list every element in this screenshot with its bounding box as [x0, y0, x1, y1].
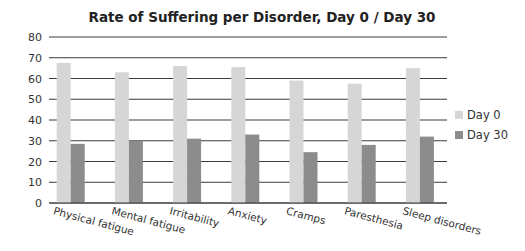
y-tick-label: 20: [28, 156, 42, 169]
bar-day-0: [406, 68, 420, 203]
bar-group: [406, 68, 434, 203]
x-axis-labels: Physical fatigueMental fatigueIrritabili…: [52, 204, 483, 237]
y-tick-label: 80: [28, 31, 42, 44]
legend-swatch: [455, 131, 463, 139]
bar-day-30: [362, 145, 376, 203]
y-tick-label: 0: [35, 197, 42, 210]
bar-day-0: [173, 66, 187, 203]
legend-item: Day 0: [455, 108, 501, 122]
legend-label: Day 30: [467, 128, 508, 142]
x-tick-label: Anxiety: [227, 204, 269, 226]
y-tick-label: 40: [28, 114, 42, 127]
legend-label: Day 0: [467, 108, 501, 122]
bar-day-30: [71, 144, 85, 203]
legend-item: Day 30: [455, 128, 508, 142]
bar-group: [231, 67, 259, 203]
bar-group: [173, 66, 201, 203]
chart-title: Rate of Suffering per Disorder, Day 0 / …: [89, 9, 436, 25]
legend: Day 0Day 30: [455, 108, 508, 142]
x-tick-label: Sleep disorders: [401, 204, 482, 237]
bar-day-0: [115, 72, 129, 203]
bar-group: [57, 63, 85, 203]
legend-swatch: [455, 111, 463, 119]
bar-day-30: [420, 137, 434, 203]
bar-day-0: [290, 81, 304, 203]
y-tick-label: 70: [28, 52, 42, 65]
x-tick-label: Paresthesia: [343, 204, 404, 231]
y-tick-label: 60: [28, 73, 42, 86]
bar-day-0: [231, 67, 245, 203]
bar-day-30: [245, 135, 259, 203]
bar-day-0: [57, 63, 71, 203]
bar-day-30: [129, 141, 143, 203]
y-axis-ticks: 01020304050607080: [28, 31, 42, 210]
bar-chart: Rate of Suffering per Disorder, Day 0 / …: [0, 0, 525, 251]
y-tick-label: 30: [28, 135, 42, 148]
bar-day-30: [304, 152, 318, 203]
bar-day-30: [187, 139, 201, 203]
bar-day-0: [348, 84, 362, 203]
x-tick-label: Cramps: [285, 204, 327, 226]
bar-group: [115, 72, 143, 203]
y-tick-label: 50: [28, 93, 42, 106]
y-tick-label: 10: [28, 176, 42, 189]
bar-group: [348, 84, 376, 203]
